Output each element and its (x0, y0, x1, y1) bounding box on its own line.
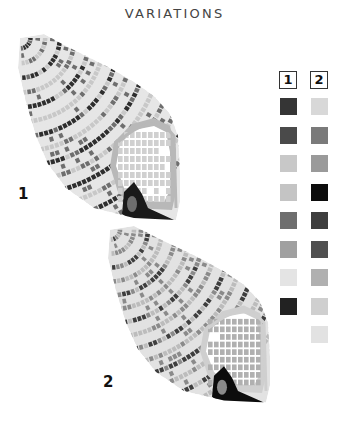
page-title: VARIATIONS (0, 6, 349, 21)
shell-illustration-1 (14, 32, 186, 228)
color-swatch (311, 212, 328, 229)
variation-label-1: 1 (18, 185, 28, 203)
color-swatch (280, 98, 297, 115)
color-swatch (311, 241, 328, 258)
color-swatch (280, 298, 297, 315)
color-swatch (311, 326, 328, 343)
color-swatch (311, 127, 328, 144)
shell-illustration-2 (104, 224, 276, 410)
color-swatch (280, 269, 297, 286)
color-swatch (280, 241, 297, 258)
color-swatch (311, 155, 328, 172)
color-swatch (280, 127, 297, 144)
color-swatch (311, 184, 328, 201)
color-swatch (280, 155, 297, 172)
palette-header-1: 1 (279, 71, 297, 89)
color-swatch (311, 269, 328, 286)
color-swatch (280, 184, 297, 201)
palette-header-2: 2 (310, 71, 328, 89)
variation-label-2: 2 (103, 373, 113, 391)
color-swatch (311, 98, 328, 115)
color-swatch (280, 212, 297, 229)
color-swatch (311, 298, 328, 315)
